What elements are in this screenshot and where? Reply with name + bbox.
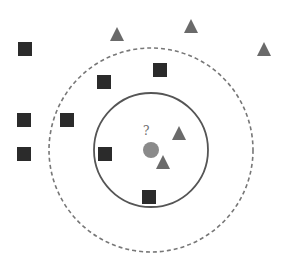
class-b-triangle [184, 19, 198, 33]
class-b-triangle [110, 27, 124, 41]
class-a-square [97, 75, 111, 89]
query-label: ? [143, 124, 149, 138]
class-b-triangle [257, 42, 271, 56]
class-b-triangle [172, 126, 186, 140]
class-a-square [17, 147, 31, 161]
query-point [143, 142, 159, 158]
class-b-points [110, 19, 271, 169]
class-a-square [17, 113, 31, 127]
class-a-square [60, 113, 74, 127]
class-a-square [142, 190, 156, 204]
class-a-square [98, 147, 112, 161]
knn-diagram: ? [0, 0, 283, 270]
class-a-square [153, 63, 167, 77]
class-a-points [17, 42, 167, 204]
class-a-square [18, 42, 32, 56]
class-b-triangle [156, 155, 170, 169]
